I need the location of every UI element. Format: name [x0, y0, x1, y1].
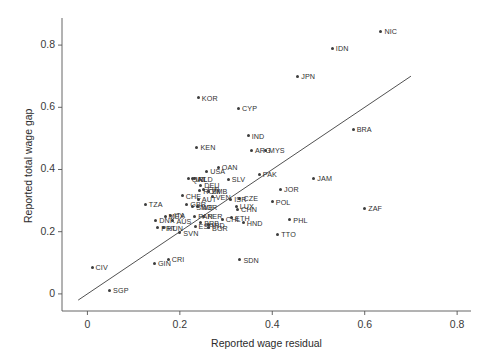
data-point	[205, 170, 208, 173]
data-point	[91, 266, 94, 269]
data-point	[199, 184, 202, 187]
point-label: PRT	[161, 224, 176, 233]
point-label: CRI	[172, 255, 185, 264]
point-label: KEN	[200, 143, 215, 152]
y-tick-label: 0.2	[40, 225, 55, 237]
data-point	[144, 203, 147, 206]
point-label: IND	[252, 132, 265, 141]
y-tick-label: 0	[49, 287, 55, 299]
data-point	[153, 262, 156, 265]
data-point	[279, 188, 282, 191]
scatter-plot-figure: 00.20.40.60.800.20.40.60.8NICIDNJPNKORCY…	[0, 0, 485, 361]
data-point	[331, 47, 334, 50]
y-tick-label: 0.8	[40, 38, 55, 50]
data-point	[258, 173, 261, 176]
data-point	[193, 215, 196, 218]
point-label: CIV	[96, 263, 108, 272]
data-point	[229, 198, 232, 201]
data-point	[108, 289, 111, 292]
point-label: SGP	[113, 286, 128, 295]
point-label: BGR	[212, 224, 228, 233]
data-point	[250, 149, 253, 152]
point-label: PAK	[263, 170, 277, 179]
data-point	[194, 225, 197, 228]
y-tick-label: 0.6	[40, 100, 55, 112]
point-label: HND	[247, 219, 263, 228]
point-label: TZA	[149, 200, 163, 209]
point-label: GIN	[158, 259, 171, 268]
data-point	[207, 190, 210, 193]
point-label: POL	[276, 198, 291, 207]
point-label: TTO	[281, 230, 296, 239]
point-label: BRA	[357, 125, 372, 134]
point-label: PHL	[293, 216, 307, 225]
point-label: MYS	[269, 146, 285, 155]
point-label: KOR	[202, 94, 218, 103]
x-tick-label: 0.6	[357, 318, 372, 330]
y-axis-title: Reported total wage gap	[22, 108, 34, 222]
point-label: JOR	[284, 185, 299, 194]
point-label: NIC	[384, 27, 397, 36]
data-point	[296, 75, 299, 78]
data-point	[264, 149, 267, 152]
point-label: SLV	[232, 175, 245, 184]
y-tick-label: 0.4	[40, 162, 55, 174]
point-label: ZAF	[368, 204, 382, 213]
data-point	[227, 178, 230, 181]
point-label: CHL	[226, 215, 241, 224]
data-point	[237, 107, 240, 110]
x-tick-label: 0.2	[173, 318, 188, 330]
x-axis-title: Reported wage residual	[211, 337, 322, 349]
point-label: IDN	[336, 44, 349, 53]
x-tick-label: 0.4	[265, 318, 280, 330]
point-label: SWE	[196, 203, 213, 212]
x-tick-label: 0	[84, 318, 90, 330]
data-point	[352, 128, 355, 131]
point-label: JAM	[317, 174, 332, 183]
data-point	[236, 208, 239, 211]
point-label: CYP	[242, 104, 257, 113]
x-tick-label: 0.8	[450, 318, 465, 330]
point-label: SDN	[243, 256, 258, 265]
point-label: JPN	[301, 72, 315, 81]
point-label: SVN	[183, 229, 198, 238]
data-point	[271, 200, 274, 203]
axis-spines	[62, 18, 471, 311]
